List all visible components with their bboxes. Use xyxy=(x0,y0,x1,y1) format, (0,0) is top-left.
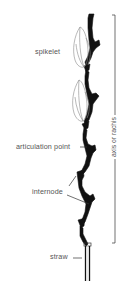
straw-label: straw xyxy=(50,253,68,260)
straw-culm xyxy=(84,243,91,281)
grass-spike-diagram xyxy=(0,0,124,282)
internode-leader-upper xyxy=(69,176,76,186)
spikelet-label: spikelet xyxy=(35,48,60,55)
axis-or-rachis-label: axis or rachis xyxy=(110,115,117,159)
internode-label: internode xyxy=(32,188,63,195)
rachis-stem xyxy=(77,14,100,246)
articulation-point-label: articulation point xyxy=(16,143,70,150)
